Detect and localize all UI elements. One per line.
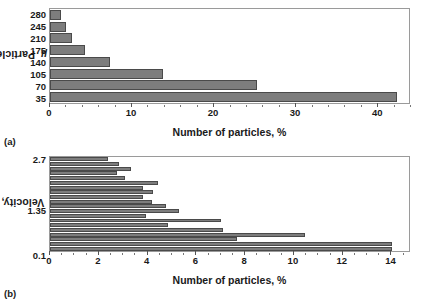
x-minor-tick [361, 105, 362, 107]
x-tick-label: 10 [126, 107, 137, 118]
panel-b-plot-frame [49, 156, 410, 252]
bar-row [50, 9, 409, 21]
bar-row [50, 44, 409, 56]
bar-row [50, 246, 409, 251]
x-tick-label: 20 [208, 107, 219, 118]
y-tick-label: 35 [35, 93, 46, 104]
x-minor-tick [312, 105, 313, 107]
x-minor-tick [305, 253, 306, 255]
x-minor-tick [208, 253, 209, 255]
panel-b-caption: (b) [4, 288, 16, 299]
figure-container: Particle size, µ 2802452101751401057035 … [0, 0, 424, 306]
x-tick-label: 4 [144, 255, 149, 266]
x-minor-tick [180, 105, 181, 107]
y-tick-label: 175 [30, 45, 46, 56]
x-minor-tick [246, 105, 247, 107]
bar-row [50, 80, 409, 92]
bar-row [50, 33, 409, 45]
x-minor-tick [328, 105, 329, 107]
x-tick-label: 0 [46, 255, 51, 266]
x-minor-tick [65, 105, 66, 107]
x-minor-tick [269, 253, 270, 255]
x-minor-tick [256, 253, 257, 255]
panel-b-y-tick-labels: 2.71.350.1 [18, 156, 46, 258]
x-minor-tick [344, 105, 345, 107]
x-minor-tick [220, 253, 221, 255]
x-minor-tick [171, 253, 172, 255]
x-minor-tick [410, 105, 411, 107]
panel-a-plot-area [49, 8, 410, 104]
x-minor-tick [86, 253, 87, 255]
x-minor-tick [183, 253, 184, 255]
x-minor-tick [394, 105, 395, 107]
bar [50, 92, 397, 102]
x-minor-tick [197, 105, 198, 107]
y-tick-label: 2.7 [33, 153, 46, 164]
bar [50, 22, 66, 32]
bar [50, 57, 110, 67]
x-tick-label: 12 [336, 255, 347, 266]
x-tick-label: 6 [193, 255, 198, 266]
x-minor-tick [317, 253, 318, 255]
x-minor-tick [159, 253, 160, 255]
x-minor-tick [110, 253, 111, 255]
x-minor-tick [378, 253, 379, 255]
x-minor-tick [122, 253, 123, 255]
x-tick-label: 8 [241, 255, 246, 266]
x-tick-label: 2 [95, 255, 100, 266]
x-tick-label: 0 [46, 107, 51, 118]
y-tick-label: 245 [30, 21, 46, 32]
x-minor-tick [354, 253, 355, 255]
x-minor-tick [73, 253, 74, 255]
x-minor-tick [230, 105, 231, 107]
bar-row [50, 21, 409, 33]
panel-b-y-axis-title: Velocity, m / s [0, 154, 18, 252]
panel-a-x-tick-labels: 010203040 [49, 107, 410, 125]
y-tick-label: 140 [30, 57, 46, 68]
x-minor-tick [330, 253, 331, 255]
bar-row [50, 68, 409, 80]
panel-a-y-axis-title: Particle size, µ [0, 6, 18, 104]
panel-a-bar-series [50, 9, 409, 103]
y-tick-label: 0.1 [33, 250, 46, 261]
panel-a-y-tick-labels: 2802452101751401057035 [22, 8, 46, 104]
x-minor-tick [164, 105, 165, 107]
x-minor-tick [403, 253, 404, 255]
x-tick-label: 30 [290, 107, 301, 118]
x-tick-label: 10 [288, 255, 299, 266]
x-minor-tick [281, 253, 282, 255]
bar-row [50, 56, 409, 68]
y-tick-label: 70 [35, 81, 46, 92]
bar [50, 69, 163, 79]
panel-a-x-axis-title: Number of particles, % [49, 126, 410, 138]
bar-row [50, 91, 409, 103]
x-tick-label: 40 [372, 107, 383, 118]
y-tick-label: 280 [30, 9, 46, 20]
panel-b-bar-series [50, 157, 409, 251]
x-minor-tick [366, 253, 367, 255]
y-tick-label: 1.35 [28, 204, 47, 215]
bar [50, 10, 61, 20]
bar [50, 80, 257, 90]
panel-b-x-axis-title: Number of particles, % [49, 274, 410, 286]
panel-a-plot-frame [49, 8, 410, 104]
y-tick-label: 210 [30, 33, 46, 44]
panel-a: Particle size, µ 2802452101751401057035 … [0, 0, 424, 150]
x-minor-tick [279, 105, 280, 107]
x-minor-tick [147, 105, 148, 107]
panel-b: Velocity, m / s 2.71.350.1 02468101214 N… [0, 146, 424, 306]
x-minor-tick [98, 105, 99, 107]
x-minor-tick [262, 105, 263, 107]
x-tick-label: 14 [385, 255, 396, 266]
panel-b-plot-area [49, 156, 410, 252]
x-minor-tick [232, 253, 233, 255]
x-minor-tick [61, 253, 62, 255]
bar [50, 33, 72, 43]
x-minor-tick [134, 253, 135, 255]
panel-b-x-tick-labels: 02468101214 [49, 255, 410, 273]
x-minor-tick [82, 105, 83, 107]
x-minor-tick [115, 105, 116, 107]
y-tick-label: 105 [30, 69, 46, 80]
bar [50, 45, 85, 55]
